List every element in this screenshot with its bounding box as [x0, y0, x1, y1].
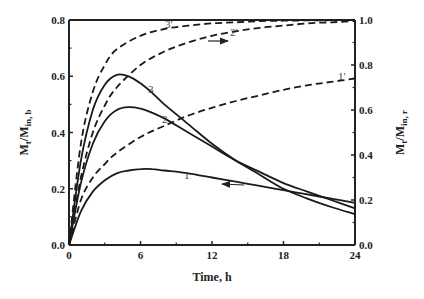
series-3 [69, 74, 355, 245]
right-y-tick-label: 0.2 [359, 194, 373, 206]
x-tick-label: 18 [278, 249, 290, 261]
right-y-axis-title: Mt/Min, r [393, 110, 409, 155]
x-axis-title: Time, h [192, 270, 231, 284]
x-tick-label: 0 [66, 249, 72, 261]
right-y-tick-label: 0.4 [359, 149, 373, 161]
curves [69, 20, 355, 245]
right-y-tick-label: 0.8 [359, 59, 373, 71]
label-3-prime: 3' [165, 18, 173, 30]
left-y-tick-label: 0.6 [51, 70, 65, 82]
series-1-prime [69, 79, 355, 246]
x-tick-label: 12 [207, 249, 219, 261]
label-2-prime: 2' [230, 26, 238, 38]
right-y-tick-label: 0.0 [359, 239, 373, 251]
label-1-prime: 1' [338, 70, 346, 82]
left-y-tick-label: 0.8 [51, 14, 65, 26]
label-3: 3 [148, 83, 154, 95]
series-2-prime [69, 21, 355, 245]
left-y-axis-title: Mt/Min, b [17, 109, 33, 155]
labels: 3'2'1'321 [148, 18, 346, 185]
left-y-tick-label: 0.4 [51, 127, 65, 139]
right-y-tick-label: 1.0 [359, 14, 373, 26]
left-y-tick-label: 0.0 [51, 239, 65, 251]
series-1 [69, 169, 355, 245]
axes: 061218240.00.20.40.60.80.00.20.40.60.81.… [17, 14, 409, 284]
arrow-left-icon [222, 184, 244, 185]
label-2: 2 [162, 113, 168, 125]
right-y-tick-label: 0.6 [359, 104, 373, 116]
series-3-prime [69, 20, 355, 245]
chart: 061218240.00.20.40.60.80.00.20.40.60.81.… [0, 0, 424, 299]
left-y-tick-label: 0.2 [51, 183, 65, 195]
x-tick-label: 6 [138, 249, 144, 261]
label-1: 1 [184, 169, 190, 181]
